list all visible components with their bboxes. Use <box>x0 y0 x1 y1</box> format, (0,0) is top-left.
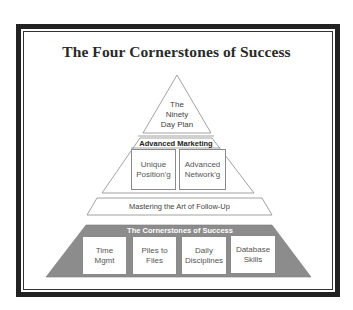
unique-positioning-line2: Position'g <box>136 170 170 180</box>
apex-label-line3: Day Plan <box>152 120 202 130</box>
unique-positioning-line1: Unique <box>136 160 170 170</box>
apex-label-line1: The <box>152 100 202 110</box>
database-skills-box: Database Skills <box>230 235 276 274</box>
advanced-networking-line1: Advanced <box>185 160 221 170</box>
unique-positioning-box: Unique Position'g <box>131 149 176 190</box>
piles-to-files-line1: Piles to <box>141 246 167 256</box>
daily-disciplines-line1: Daily <box>185 246 223 256</box>
piles-to-files-box: Piles to Files <box>132 236 177 275</box>
database-skills-line1: Database <box>236 245 270 255</box>
time-management-line2: Mgmt <box>95 256 115 266</box>
time-management-box: Time Mgmt <box>82 236 127 275</box>
daily-disciplines-box: Daily Disciplines <box>181 236 227 275</box>
advanced-networking-box: Advanced Network'g <box>179 149 226 190</box>
advanced-networking-line2: Network'g <box>185 170 221 180</box>
apex-label-line2: Ninety <box>152 110 202 120</box>
apex-label: The Ninety Day Plan <box>152 100 202 130</box>
database-skills-line2: Skills <box>236 255 270 265</box>
piles-to-files-line2: Files <box>141 256 167 266</box>
time-management-line1: Time <box>95 246 115 256</box>
advanced-marketing-header: Advanced Marketing <box>130 139 222 149</box>
follow-up-label: Mastering the Art of Follow-Up <box>97 202 262 212</box>
daily-disciplines-line2: Disciplines <box>185 256 223 266</box>
